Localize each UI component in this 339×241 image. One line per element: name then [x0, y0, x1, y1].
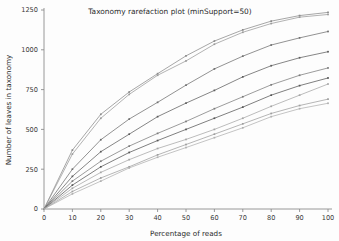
series-marker — [270, 65, 272, 67]
series-line — [44, 31, 328, 209]
series-marker — [299, 105, 301, 107]
series-marker — [185, 84, 187, 86]
series-marker — [72, 193, 74, 195]
series-marker — [327, 77, 329, 79]
x-tick-label: 60 — [210, 214, 218, 222]
rarefaction-chart: Taxonomy rarefaction plot (minSupport=50… — [0, 0, 339, 241]
series-marker — [214, 133, 216, 135]
series-line — [44, 52, 328, 209]
series-marker — [157, 73, 159, 75]
y-tick-label: 500 — [25, 126, 38, 134]
series-line — [44, 14, 328, 209]
series-marker — [100, 166, 102, 168]
series-marker — [214, 43, 216, 45]
series-marker — [100, 180, 102, 182]
series-marker — [185, 144, 187, 146]
series-marker — [299, 37, 301, 39]
series-marker — [270, 20, 272, 22]
series-marker — [214, 40, 216, 42]
series-marker — [242, 117, 244, 119]
series-marker — [185, 55, 187, 57]
series-marker — [128, 159, 130, 161]
series-marker — [327, 31, 329, 33]
series-marker — [327, 67, 329, 69]
series-marker — [299, 85, 301, 87]
x-tick-label: 90 — [295, 214, 303, 222]
x-tick-label: 0 — [42, 214, 46, 222]
series-marker — [242, 31, 244, 33]
series-marker — [72, 180, 74, 182]
y-axis-label: Number of leaves in taxonomy — [4, 54, 13, 165]
y-tick-label: 1250 — [21, 6, 38, 14]
series-marker — [128, 91, 130, 93]
series-marker — [128, 133, 130, 135]
series-marker — [327, 98, 329, 100]
series-marker — [157, 154, 159, 156]
series-marker — [214, 117, 216, 119]
series-marker — [214, 137, 216, 139]
series-marker — [242, 127, 244, 129]
x-tick-label: 10 — [68, 214, 76, 222]
series-marker — [214, 129, 216, 131]
series-marker — [72, 168, 74, 170]
series-marker — [327, 83, 329, 85]
y-tick-label: 1000 — [21, 46, 38, 54]
series-marker — [242, 106, 244, 108]
series-marker — [270, 44, 272, 46]
series-marker — [214, 68, 216, 70]
series-marker — [72, 187, 74, 189]
series-marker — [100, 139, 102, 141]
series-marker — [242, 76, 244, 78]
series-marker — [242, 29, 244, 31]
series-line — [44, 78, 328, 209]
title-layer: Taxonomy rarefaction plot (minSupport=50… — [87, 7, 251, 16]
x-tick-label: 70 — [239, 214, 247, 222]
series-marker — [100, 172, 102, 174]
series-marker — [100, 151, 102, 153]
x-axis-label: Percentage of reads — [150, 229, 222, 238]
series-marker — [157, 133, 159, 135]
series-marker — [72, 184, 74, 186]
series-marker — [299, 57, 301, 59]
series-marker — [270, 84, 272, 86]
chart-canvas: Taxonomy rarefaction plot (minSupport=50… — [0, 0, 339, 241]
data-series — [44, 31, 329, 209]
series-marker — [128, 94, 130, 96]
series-marker — [157, 140, 159, 142]
data-series — [44, 102, 329, 209]
x-tick-label: 40 — [153, 214, 161, 222]
series-marker — [100, 177, 102, 179]
series-marker — [157, 101, 159, 103]
x-tick-label: 20 — [97, 214, 105, 222]
series-marker — [214, 108, 216, 110]
series-marker — [185, 139, 187, 141]
series-marker — [270, 23, 272, 25]
series-marker — [128, 167, 130, 169]
series-marker — [327, 14, 329, 16]
series-marker — [100, 117, 102, 119]
series-marker — [72, 176, 74, 178]
x-tick-label: 30 — [125, 214, 133, 222]
series-marker — [157, 74, 159, 76]
series-marker — [270, 116, 272, 118]
series-marker — [157, 116, 159, 118]
chart-title: Taxonomy rarefaction plot (minSupport=50… — [87, 7, 251, 16]
x-tick-label: 100 — [322, 214, 335, 222]
series-layer — [44, 12, 329, 209]
series-marker — [100, 113, 102, 115]
series-line — [44, 12, 328, 209]
series-marker — [185, 147, 187, 149]
series-marker — [157, 148, 159, 150]
series-marker — [157, 156, 159, 158]
series-marker — [100, 160, 102, 162]
series-marker — [72, 149, 74, 151]
series-marker — [242, 123, 244, 125]
series-marker — [299, 74, 301, 76]
series-marker — [299, 16, 301, 18]
data-series — [44, 14, 329, 209]
series-marker — [242, 55, 244, 57]
data-series — [44, 98, 329, 209]
series-marker — [270, 105, 272, 107]
series-marker — [327, 51, 329, 53]
series-marker — [185, 121, 187, 123]
